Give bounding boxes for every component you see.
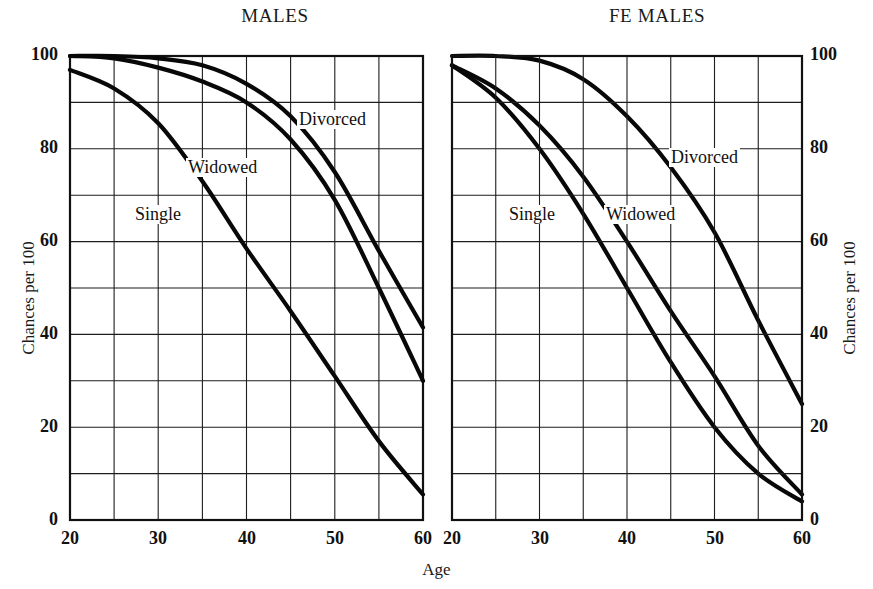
y-tick-right-40: 40 [810,323,856,344]
y-tick-right-20: 20 [810,416,856,437]
x-tick-females-50: 50 [695,528,735,549]
curve-label-females-single: Single [507,205,557,224]
y-tick-left-60: 60 [12,230,58,251]
curve-label-females-divorced: Divorced [669,148,740,167]
x-tick-females-60: 60 [782,528,822,549]
x-tick-males-30: 30 [138,528,178,549]
curve-label-males-single: Single [133,205,183,224]
y-tick-left-20: 20 [12,416,58,437]
grid-females [0,0,873,589]
x-tick-males-20: 20 [50,528,90,549]
y-tick-left-40: 40 [12,323,58,344]
y-tick-right-60: 60 [810,230,856,251]
y-tick-left-100: 100 [12,44,58,65]
y-tick-right-100: 100 [810,44,856,65]
y-tick-right-0: 0 [810,509,856,530]
curve-label-males-widowed: Widowed [186,158,259,177]
curve-label-females-widowed: Widowed [604,205,677,224]
figure-root: MALES FE MALES Chances per 100 Chances p… [0,0,873,589]
x-tick-females-20: 20 [432,528,472,549]
x-tick-males-50: 50 [315,528,355,549]
curve-label-males-divorced: Divorced [297,110,368,129]
x-tick-males-40: 40 [227,528,267,549]
y-tick-left-0: 0 [12,509,58,530]
y-tick-right-80: 80 [810,137,856,158]
x-tick-females-30: 30 [520,528,560,549]
x-tick-females-40: 40 [607,528,647,549]
y-tick-left-80: 80 [12,137,58,158]
